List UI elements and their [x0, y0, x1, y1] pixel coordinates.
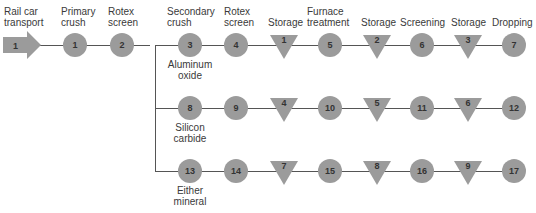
branch-label: Aluminumoxide [160, 59, 220, 81]
column-header: Rotexscreen [224, 6, 254, 28]
storage-triangle: 4 [270, 98, 298, 122]
operation-circle: 3 [178, 33, 202, 57]
operation-circle: 16 [410, 159, 434, 183]
column-header: Storage [268, 17, 303, 28]
column-header: Screening [400, 17, 445, 28]
storage-label: 1 [278, 35, 290, 45]
storage-label: 7 [278, 161, 290, 171]
column-header: Rail cartransport [4, 6, 43, 28]
storage-label: 4 [278, 98, 290, 108]
storage-label: 2 [371, 35, 383, 45]
column-header: Dropping [492, 17, 533, 28]
storage-triangle: 3 [454, 35, 482, 59]
operation-circle: 7 [502, 33, 526, 57]
storage-triangle: 6 [454, 98, 482, 122]
storage-label: 9 [462, 161, 474, 171]
operation-circle: 8 [178, 96, 202, 120]
process-flow-chart: Rail cartransportPrimarycrushRotexscreen… [0, 0, 536, 213]
operation-circle: 12 [502, 96, 526, 120]
operation-circle: 17 [502, 159, 526, 183]
operation-circle: 13 [178, 159, 202, 183]
svg-text:1: 1 [13, 41, 18, 51]
storage-label: 6 [462, 98, 474, 108]
storage-label: 3 [462, 35, 474, 45]
storage-triangle: 2 [363, 35, 391, 59]
operation-circle: 10 [318, 96, 342, 120]
column-header: Storage [361, 17, 396, 28]
operation-circle: 9 [224, 96, 248, 120]
storage-triangle: 8 [363, 161, 391, 185]
operation-circle: 11 [410, 96, 434, 120]
column-header: Rotexscreen [108, 6, 138, 28]
operation-circle: 1 [63, 33, 87, 57]
storage-triangle: 5 [363, 98, 391, 122]
column-header: Storage [451, 17, 486, 28]
storage-label: 8 [371, 161, 383, 171]
operation-circle: 4 [224, 33, 248, 57]
operation-circle: 15 [318, 159, 342, 183]
storage-label: 5 [371, 98, 383, 108]
operation-circle: 2 [110, 33, 134, 57]
operation-circle: 6 [410, 33, 434, 57]
branch-label: Eithermineral [160, 185, 220, 207]
storage-triangle: 1 [270, 35, 298, 59]
operation-circle: 14 [224, 159, 248, 183]
operation-circle: 5 [318, 33, 342, 57]
column-header: Furnacetreatment [307, 6, 349, 28]
column-header: Secondarycrush [167, 6, 215, 28]
branch-label: Siliconcarbide [160, 122, 220, 144]
storage-triangle: 7 [270, 161, 298, 185]
transport-arrow-icon: 1 [3, 31, 43, 63]
column-header: Primarycrush [61, 6, 95, 28]
storage-triangle: 9 [454, 161, 482, 185]
